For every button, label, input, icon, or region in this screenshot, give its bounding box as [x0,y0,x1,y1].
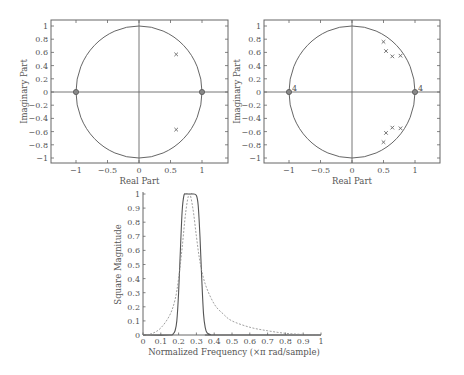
pole-zero-plot-left: −1−0.500.5110.80.60.40.20−0.2−0.4−0.6−0.… [19,20,228,186]
pole-zero-plot-right: −1−0.500.5110.80.60.40.20−0.2−0.4−0.6−0.… [232,20,440,186]
y-tick-label: 0.8 [127,218,140,227]
x-tick-label: 0.5 [164,166,177,175]
pole-marker [382,40,386,44]
y-tick-label: 0.5 [127,261,140,270]
y-tick-label: −0.8 [242,141,261,150]
pole-marker [399,54,403,58]
y-tick-label: 0.4 [127,275,140,284]
pole-marker [384,49,388,53]
y-tick-label: 0.2 [248,75,261,84]
dashed-response-curve [143,194,321,335]
pole-marker [399,127,403,131]
x-tick-label: 0.2 [172,337,185,346]
y-tick-label: 0.1 [127,317,140,326]
zero-marker [73,89,78,94]
y-tick-label: 0.6 [35,48,48,57]
zero-marker [199,89,204,94]
y-tick-label: 0 [256,88,261,97]
pole-marker [391,55,395,59]
x-tick-label: −1 [283,166,295,175]
y-axis-label: Imaginary Part [232,59,242,124]
y-tick-label: −0.4 [29,114,48,123]
y-tick-label: −0.6 [29,128,48,137]
y-tick-label: −0.2 [242,101,261,110]
x-tick-label: −0.5 [311,166,330,175]
x-tick-label: 0.4 [208,337,221,346]
y-tick-label: −0.8 [29,141,48,150]
pole-marker [174,128,178,132]
figure: −1−0.500.5110.80.60.40.20−0.2−0.4−0.6−0.… [0,0,464,375]
x-tick-label: 0.8 [279,337,292,346]
y-tick-label: 0.6 [248,48,261,57]
y-tick-label: 0.2 [35,75,48,84]
y-tick-label: 0.8 [35,35,48,44]
y-tick-label: 0.3 [127,289,140,298]
y-tick-label: −1 [36,154,48,163]
x-tick-label: 0.5 [377,166,390,175]
y-tick-label: 0.9 [127,204,140,213]
x-tick-label: 0 [136,166,141,175]
y-tick-label: 0 [43,88,48,97]
x-tick-label: 0.5 [226,337,239,346]
y-tick-label: 1 [256,22,261,31]
y-axis-label: Square Magnitude [113,224,123,304]
x-tick-label: 1 [412,166,417,175]
pole-marker [174,53,178,57]
y-tick-label: 0.7 [127,232,140,241]
x-axis-label: Real Part [120,176,160,186]
magnitude-response-plot: 00.10.20.30.40.50.60.70.80.9100.10.20.30… [113,190,324,357]
y-tick-label: −0.6 [242,128,261,137]
y-tick-label: 1 [135,190,140,199]
y-tick-label: 0.4 [248,62,261,71]
x-tick-label: 0.6 [243,337,256,346]
y-tick-label: 1 [43,22,48,31]
x-tick-label: 0 [140,337,145,346]
y-tick-label: 0.2 [127,303,140,312]
x-axis-label: Real Part [332,176,372,186]
x-tick-label: 0.9 [297,337,310,346]
pole-marker [391,126,395,130]
y-tick-label: −0.4 [242,114,261,123]
x-tick-label: 0.1 [154,337,167,346]
solid-response-curve [143,194,321,335]
y-tick-label: 0 [135,331,140,340]
x-tick-label: −1 [70,166,82,175]
y-tick-label: 0.4 [35,62,48,71]
y-tick-label: −1 [249,154,261,163]
x-axis-label: Normalized Frequency (×π rad/sample) [148,347,320,357]
y-tick-label: 0.8 [248,35,261,44]
pole-marker [384,131,388,135]
x-tick-label: 0 [349,166,354,175]
x-tick-label: −0.5 [98,166,117,175]
pole-marker [382,140,386,144]
zero-multiplicity-label: 4 [418,84,423,93]
x-tick-label: 1 [199,166,204,175]
y-tick-label: 0.6 [127,246,140,255]
y-axis-label: Imaginary Part [19,59,29,124]
x-tick-label: 0.3 [190,337,203,346]
zero-marker [286,89,291,94]
x-tick-label: 0.7 [261,337,274,346]
x-tick-label: 1 [318,337,323,346]
zero-multiplicity-label: 4 [292,84,297,93]
zero-marker [412,89,417,94]
y-tick-label: −0.2 [29,101,48,110]
